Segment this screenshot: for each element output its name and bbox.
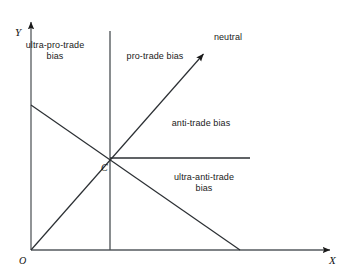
- trade-bias-diagram: ultra-pro-trade bias pro-trade bias neut…: [0, 0, 350, 280]
- x-axis-label: X: [329, 254, 336, 266]
- region-label-pro-trade: pro-trade bias: [114, 51, 196, 62]
- region-label-neutral: neutral: [200, 32, 256, 43]
- region-label-ultra-pro-trade: ultra-pro-trade bias: [16, 40, 94, 62]
- neutral-ray: [31, 54, 204, 250]
- region-label-ultra-anti-trade: ultra-anti-trade bias: [160, 172, 248, 194]
- origin-label-o: O: [19, 255, 26, 266]
- point-label-c: C: [101, 162, 108, 173]
- region-label-anti-trade: anti-trade bias: [158, 118, 244, 129]
- y-axis-label: Y: [15, 26, 21, 38]
